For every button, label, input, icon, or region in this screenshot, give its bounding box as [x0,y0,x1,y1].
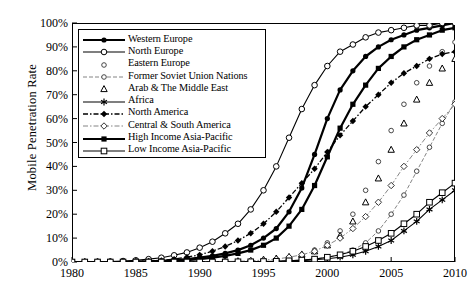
x-tick-label: 1990 [170,266,230,281]
legend-label: North Europe [127,45,183,56]
legend-label: Western Europe [127,33,192,44]
legend-item: Eastern Europe [81,57,262,69]
legend-symbol-filled-square-icon [81,131,127,143]
legend-item: Former Soviet Union Nations [81,69,262,81]
legend-label: Eastern Europe [127,57,190,68]
legend-item: North America [81,106,262,118]
legend-symbol-filled-diamond-icon [81,106,127,118]
legend-label: Africa [127,94,154,105]
x-tick-label: 2005 [361,266,421,281]
legend-item: Low Income Asia-Pacific [81,143,262,155]
legend-item: Arab & The Middle East [81,81,262,93]
legend-label: Arab & The Middle East [127,82,228,93]
legend-item: North Europe [81,44,262,56]
legend-item: Western Europe [81,32,262,44]
legend-symbol-asterisk-icon [81,94,127,106]
legend-symbol-open-circle-icon [81,44,127,56]
x-tick-label: 1995 [234,266,294,281]
legend-item: Africa [81,93,262,105]
mobile-penetration-chart: Mobile Penetration Rate 0%10%20%30%40%50… [0,0,472,300]
legend-symbol-open-circle-small-icon [81,69,127,81]
legend-label: Former Soviet Union Nations [127,70,247,81]
legend-label: High Income Asia-Pacific [127,131,233,142]
legend-label: North America [127,106,188,117]
legend-label: Low Income Asia-Pacific [127,143,231,154]
legend-symbol-open-diamond-icon [81,118,127,130]
legend-item: Central & South America [81,118,262,130]
legend-label: Central & South America [127,119,231,130]
legend-symbol-open-circle-small-icon [81,57,127,69]
x-tick-label: 1985 [106,266,166,281]
x-tick-label: 2010 [425,266,472,281]
x-tick-label: 1980 [42,266,102,281]
legend-symbol-filled-circle-icon [81,32,127,44]
legend-symbol-open-square-icon [81,143,127,155]
x-tick-label: 2000 [297,266,357,281]
chart-legend: Western EuropeNorth EuropeEastern Europe… [78,29,266,158]
legend-item: High Income Asia-Pacific [81,130,262,142]
legend-symbol-open-triangle-icon [81,81,127,93]
